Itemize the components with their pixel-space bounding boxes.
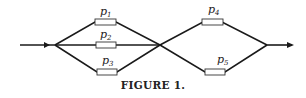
component-p5 xyxy=(205,69,225,75)
component-p3 xyxy=(97,69,117,75)
label-p3: p3 xyxy=(102,54,114,68)
component-p4 xyxy=(202,19,223,25)
wire-p5 xyxy=(160,45,267,72)
label-p4: p4 xyxy=(208,3,220,17)
label-p5: p5 xyxy=(217,53,229,67)
component-p2 xyxy=(96,42,116,48)
figure-caption: FIGURE 1. xyxy=(0,79,306,91)
parallel-block-1: p1 p2 p3 xyxy=(55,5,160,75)
input-arrow xyxy=(20,42,55,48)
output-arrow xyxy=(267,42,294,48)
parallel-block-2: p4 p5 xyxy=(160,3,267,75)
label-p1: p1 xyxy=(100,5,112,19)
arrowhead-icon xyxy=(287,42,294,48)
arrowhead-icon xyxy=(44,42,50,48)
wire-p4 xyxy=(160,22,267,45)
label-p2: p2 xyxy=(100,28,112,42)
component-p1 xyxy=(95,19,116,25)
